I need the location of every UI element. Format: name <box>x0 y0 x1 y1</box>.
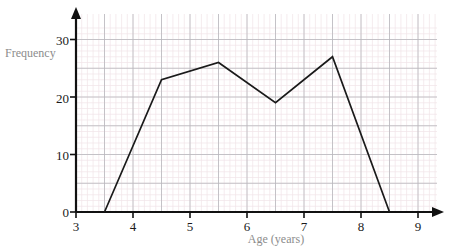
chart-canvas: 0 10 20 30 3 4 5 6 7 8 9 Frequency Age (… <box>0 0 449 247</box>
y-tick-label-30: 30 <box>56 33 69 48</box>
frequency-polygon-chart: 0 10 20 30 3 4 5 6 7 8 9 Frequency Age (… <box>0 0 449 247</box>
y-tick-label-20: 20 <box>56 91 69 106</box>
x-axis-title: Age (years) <box>248 232 304 246</box>
x-tick-label-4: 4 <box>130 219 137 234</box>
y-tick-label-0: 0 <box>63 205 70 220</box>
y-axis-title: Frequency <box>5 46 56 60</box>
x-tick-label-5: 5 <box>187 219 194 234</box>
x-tick-label-9: 9 <box>415 219 422 234</box>
x-tick-label-3: 3 <box>73 219 80 234</box>
y-tick-label-10: 10 <box>56 148 69 163</box>
x-tick-label-8: 8 <box>358 219 365 234</box>
